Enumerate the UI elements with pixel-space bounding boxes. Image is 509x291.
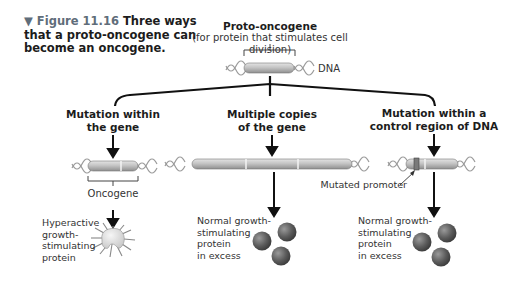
branch-heading-mutation-in-gene: Mutation within the gene [53,108,173,133]
proto-oncogene-title: Proto-oncogene [210,20,330,33]
result-hyperactive-protein: Hyperactive growth- stimulating protein [42,217,112,263]
branch-lines [115,76,435,106]
result-normal-protein-excess-promoter: Normal growth- stimulating protein in ex… [358,215,438,261]
branch-heading-multiple-copies: Multiple copies of the gene [212,108,332,133]
oncogene-label: Oncogene [83,188,143,200]
mutated-promoter-label: Mutated promoter [317,179,407,191]
gene-copies-dna-icon [165,157,369,171]
proto-oncogene-subtitle: (for protein that stimulates cell divisi… [180,32,360,56]
top-dna-gene-icon [226,61,314,75]
dna-label: DNA [318,63,348,75]
result-normal-protein-excess-copies: Normal growth- stimulating protein in ex… [197,215,277,261]
oncogene-dna-icon [72,159,157,186]
figure-label: ▼ Figure 11.16 [24,14,119,28]
branch-heading-control-region: Mutation within a control region of DNA [369,107,499,132]
